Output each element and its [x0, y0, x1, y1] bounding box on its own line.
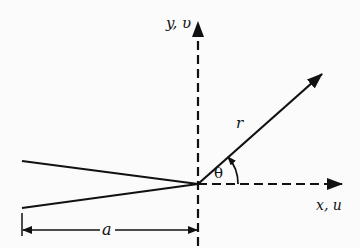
- diagram-canvas: y, υ x, u r θ a: [0, 0, 360, 248]
- crack-lower-face: [22, 184, 198, 208]
- y-axis-label: y, υ: [165, 14, 191, 32]
- crack-tip-diagram: y, υ x, u r θ a: [0, 0, 360, 248]
- angle-arc: [228, 157, 238, 184]
- radius-label: r: [236, 114, 244, 132]
- x-axis-label: x, u: [316, 197, 342, 213]
- crack-length-label: a: [102, 220, 112, 239]
- crack-upper-face: [22, 161, 198, 184]
- angle-label: θ: [214, 164, 223, 182]
